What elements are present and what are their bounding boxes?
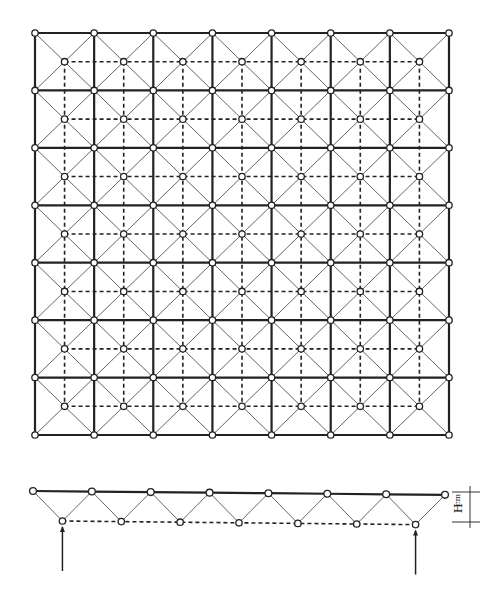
web-diagonal	[35, 291, 65, 320]
bottom-node	[121, 59, 127, 65]
web-diagonal	[35, 349, 65, 378]
bottom-node	[298, 231, 304, 237]
web-diagonal	[124, 62, 154, 91]
web-diagonal	[360, 263, 390, 292]
web-diagonal	[35, 62, 65, 91]
bottom-node	[416, 403, 422, 409]
web-diagonal	[390, 62, 420, 91]
web-diagonal	[390, 90, 420, 119]
top-node	[446, 374, 452, 380]
web-diagonal	[183, 90, 213, 119]
top-node	[446, 30, 452, 36]
top-node	[209, 260, 215, 266]
web-diagonal	[35, 33, 65, 62]
bottom-node	[416, 173, 422, 179]
web-diagonal	[124, 263, 154, 292]
web-diagonal	[65, 119, 95, 148]
top-node	[446, 317, 452, 323]
web-diagonal	[153, 320, 183, 349]
web-diagonal	[65, 90, 95, 119]
web-diagonal	[419, 378, 449, 407]
web-diagonal	[212, 33, 242, 62]
bottom-node	[121, 288, 127, 294]
web-diagonal	[94, 263, 124, 292]
web-diagonal	[35, 378, 65, 407]
elevation-web	[268, 493, 297, 523]
web-diagonal	[212, 378, 242, 407]
web-diagonal	[212, 320, 242, 349]
web-diagonal	[390, 406, 420, 435]
elevation-bottom-node	[295, 520, 301, 526]
bottom-node	[61, 288, 67, 294]
top-node	[387, 145, 393, 151]
bottom-node	[416, 231, 422, 237]
web-diagonal	[331, 406, 361, 435]
elevation-top-node	[383, 491, 390, 498]
web-diagonal	[331, 90, 361, 119]
web-diagonal	[153, 177, 183, 206]
web-diagonal	[183, 234, 213, 263]
web-diagonal	[153, 205, 183, 234]
web-diagonal	[360, 148, 390, 177]
bottom-node	[61, 346, 67, 352]
web-diagonal	[212, 119, 242, 148]
bottom-node	[61, 403, 67, 409]
web-diagonal	[272, 234, 302, 263]
web-diagonal	[360, 378, 390, 407]
web-diagonal	[331, 378, 361, 407]
web-diagonal	[242, 119, 272, 148]
web-diagonal	[419, 62, 449, 91]
web-diagonal	[360, 234, 390, 263]
web-diagonal	[153, 90, 183, 119]
bottom-node	[357, 173, 363, 179]
web-diagonal	[183, 119, 213, 148]
web-diagonal	[94, 62, 124, 91]
bottom-node	[357, 288, 363, 294]
bottom-node	[180, 116, 186, 122]
web-diagonal	[153, 148, 183, 177]
web-diagonal	[153, 406, 183, 435]
web-diagonal	[65, 205, 95, 234]
top-node	[268, 30, 274, 36]
web-diagonal	[35, 177, 65, 206]
web-diagonal	[35, 234, 65, 263]
bottom-node	[416, 288, 422, 294]
web-diagonal	[419, 90, 449, 119]
web-diagonal	[242, 406, 272, 435]
bottom-node	[416, 346, 422, 352]
top-node	[387, 202, 393, 208]
top-node	[150, 30, 156, 36]
web-diagonal	[212, 234, 242, 263]
web-diagonal	[153, 234, 183, 263]
web-diagonal	[301, 205, 331, 234]
bottom-node	[239, 288, 245, 294]
top-node	[209, 202, 215, 208]
top-node	[328, 87, 334, 93]
top-node	[32, 202, 38, 208]
web-diagonal	[301, 263, 331, 292]
web-diagonal	[124, 90, 154, 119]
web-diagonal	[212, 148, 242, 177]
top-node	[446, 202, 452, 208]
web-diagonal	[153, 119, 183, 148]
top-node	[209, 374, 215, 380]
top-node	[268, 432, 274, 438]
top-node	[32, 87, 38, 93]
web-diagonal	[390, 263, 420, 292]
web-diagonal	[35, 90, 65, 119]
web-diagonal	[390, 349, 420, 378]
web-diagonal	[242, 205, 272, 234]
elevation-top-node	[147, 489, 154, 496]
web-diagonal	[124, 234, 154, 263]
web-diagonal	[212, 62, 242, 91]
elevation-web	[357, 494, 386, 524]
web-diagonal	[360, 291, 390, 320]
bottom-node	[180, 231, 186, 237]
bottom-node	[298, 59, 304, 65]
plan-view	[32, 30, 452, 438]
web-diagonal	[65, 320, 95, 349]
top-node	[387, 260, 393, 266]
web-diagonal	[65, 406, 95, 435]
top-node	[209, 317, 215, 323]
web-diagonal	[65, 263, 95, 292]
